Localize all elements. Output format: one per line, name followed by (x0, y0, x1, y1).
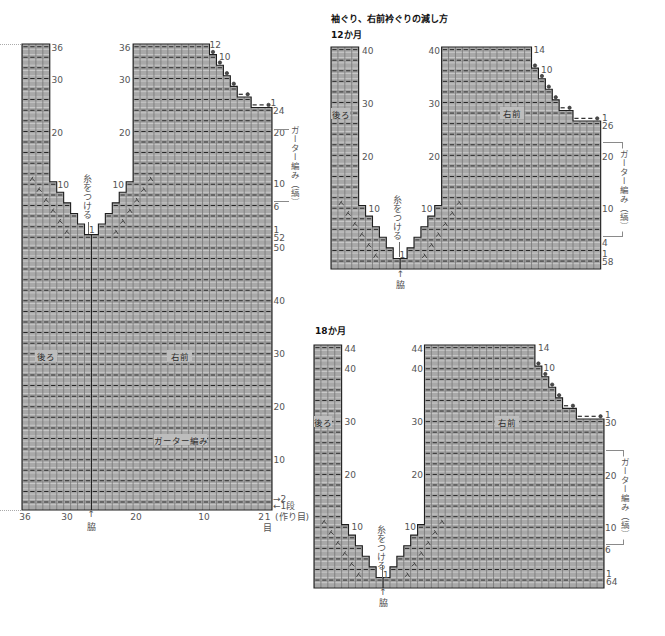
front-armhole-rows-label: 40 (429, 46, 440, 56)
front-armhole-rows-label: 10 (405, 522, 416, 532)
back-rows-label: 30 (52, 75, 63, 85)
stitch-numbers-label: 36 (19, 512, 30, 522)
side-seam-label: 脇 (379, 598, 388, 608)
back-rows-label: 30 (362, 99, 373, 109)
back-rows-label: 36 (52, 43, 63, 53)
bind-off-dot-icon (599, 415, 602, 418)
side-seam-label: 脇 (87, 522, 96, 532)
back-rows-label: 30 (345, 417, 356, 427)
garter-stripe-label: ガーター編み（縞） (618, 148, 628, 231)
front-armhole-rows-label: 20 (412, 470, 423, 480)
back-rows-label: 40 (345, 364, 356, 374)
garter-stripe-label: ガーター編み（縞） (289, 124, 299, 207)
stitch-numbers-label: 30 (61, 512, 72, 522)
back-rows-label: 40 (362, 46, 373, 56)
side-rows-label: 6 (274, 202, 280, 212)
back-rows-label: 10 (352, 522, 363, 532)
side-rows-label: 20 (274, 402, 285, 412)
piece-name-label: 右前 (495, 416, 519, 427)
bind-off-dot-icon (571, 404, 574, 407)
piece-name-label: 後ろ (331, 108, 350, 119)
piece-name-label: 右前 (167, 350, 192, 362)
bind-off-dot-icon (246, 93, 249, 96)
bind-off-dot-icon (533, 64, 536, 67)
stitch-numbers-label: 20 (130, 512, 141, 522)
bind-off-dot-icon (211, 50, 214, 53)
size-caption-18-months: 18か月 (315, 326, 346, 337)
size-caption-12-months: 12か月 (331, 30, 362, 41)
back-rows-label: 44 (345, 344, 356, 354)
stitch-grid (22, 44, 272, 510)
front-armhole-rows-label: 40 (412, 364, 423, 374)
back-rows-label: 20 (362, 152, 373, 162)
bind-off-dot-icon (568, 106, 571, 109)
stitch-numbers-label: 10 (198, 512, 209, 522)
front-armhole-rows-label: 30 (119, 75, 130, 85)
side-rows-label: 64 (606, 577, 617, 587)
side-seam-label: 脇 (396, 280, 405, 290)
bind-off-dot-icon (225, 71, 228, 74)
side-rows-label: 4 (602, 238, 608, 248)
front-armhole-rows-label: 20 (119, 128, 130, 138)
side-rows-label: 30 (605, 418, 616, 428)
front-armhole-rows-label: 30 (429, 99, 440, 109)
front-armhole-rows-label: 44 (412, 344, 423, 354)
body-knitting-chart (18, 40, 276, 514)
bind-off-dot-icon (544, 372, 547, 375)
side-rows-label: (作り目) (275, 512, 309, 522)
bind-off-dot-icon (232, 82, 235, 85)
side-rows-label: ←1段 (273, 501, 295, 511)
section-title: 袖ぐり、右前衿ぐりの減し方 (331, 14, 448, 25)
side-seam-arrow-icon: ↑ (397, 269, 405, 279)
front-armhole-rows-label: 10 (421, 204, 432, 214)
side-rows-label: 10 (274, 455, 285, 465)
side-rows-label: 30 (274, 349, 285, 359)
stitch-numbers-label: 目 (263, 523, 272, 533)
side-rows-label: 26 (602, 121, 613, 131)
side-rows-label: 24 (273, 106, 284, 116)
back-rows-label: 20 (345, 470, 356, 480)
neck-rows-label: 12 (210, 40, 221, 50)
front-armhole-rows-label: 10 (113, 180, 124, 190)
back-rows-label: 20 (52, 128, 63, 138)
bind-off-dot-icon (554, 96, 557, 99)
piece-name-label: 右前 (500, 107, 524, 119)
bind-off-dot-icon (596, 117, 599, 120)
attach-yarn-row-number: 1 (383, 570, 389, 580)
attach-yarn-row-number: 1 (89, 225, 95, 235)
stitch-numbers-label: 2 (258, 512, 264, 522)
side-rows-label: 40 (274, 296, 285, 306)
neck-rows-label: 10 (544, 363, 555, 373)
bind-off-dot-icon (547, 85, 550, 88)
side-rows-label: 6 (605, 545, 611, 555)
attach-yarn-label: 糸をつける (392, 195, 402, 240)
bind-off-dot-icon (551, 383, 554, 386)
side-rows-label: 52 (274, 233, 285, 243)
piece-name-label: 後ろ (35, 350, 57, 362)
m18-knitting-chart (310, 341, 608, 592)
front-armhole-rows-label: 20 (429, 152, 440, 162)
attach-yarn-label: 糸をつける (376, 525, 386, 570)
attach-yarn-label: 糸をつける (82, 174, 92, 219)
side-rows-label: 50 (274, 243, 285, 253)
back-rows-label: 10 (58, 180, 69, 190)
attach-yarn-row-number: 1 (400, 250, 406, 260)
stitch-grid (314, 345, 604, 588)
side-rows-label: 58 (602, 257, 613, 267)
back-rows-label: 10 (369, 204, 380, 214)
garter-stripe-label: ガーター編み（縞） (619, 456, 629, 539)
front-armhole-rows-label: 30 (412, 417, 423, 427)
front-armhole-rows-label: 36 (119, 43, 130, 53)
neck-rows-label: 14 (534, 45, 545, 55)
bind-off-dot-icon (537, 362, 540, 365)
stitch-numbers-label: 1 (265, 512, 271, 522)
piece-name-label: 後ろ (314, 416, 332, 427)
knitting-diagram-page: 袖ぐり、右前衿ぐりの減し方 12か月 18か月 3630201036302010… (0, 0, 665, 636)
neck-rows-label: 14 (538, 343, 549, 353)
side-seam-arrow-icon: ↑ (379, 587, 387, 597)
neck-rows-label: 10 (219, 52, 230, 62)
bind-off-dot-icon (557, 393, 560, 396)
neck-rows-label: 10 (541, 65, 552, 75)
piece-name-label: ガーター編み (154, 434, 207, 445)
side-seam-arrow-icon: ↑ (88, 509, 96, 519)
